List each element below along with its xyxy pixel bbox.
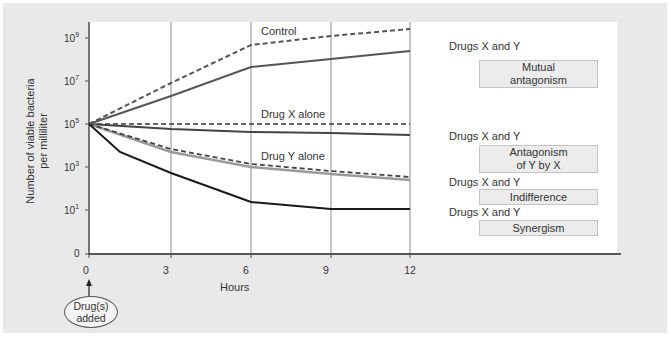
legend-title-synergism: Drugs X and Y xyxy=(449,206,520,218)
label-drug-x-alone: Drug X alone xyxy=(261,108,325,120)
series-control xyxy=(89,29,410,124)
x-tick-label: 6 xyxy=(231,264,261,276)
y-tick-label: 101 xyxy=(64,203,79,216)
x-axis-label: Hours xyxy=(220,281,249,293)
series-antagonism-y-by-x xyxy=(89,124,410,135)
x-tick-label: 3 xyxy=(151,264,181,276)
legend-label: Mutual xyxy=(480,61,597,74)
legend-label: Synergism xyxy=(480,222,597,235)
series-mutual-antagonism xyxy=(89,51,410,124)
label-control: Control xyxy=(261,25,296,37)
legend-box-mutual-antagonism: Mutual antagonism xyxy=(479,60,598,88)
legend-label: Indifference xyxy=(480,191,597,204)
legend-box-antagonism-y-by-x: Antagonism of Y by X xyxy=(479,145,598,173)
legend-label: antagonism xyxy=(480,74,597,87)
x-tick-label: 0 xyxy=(71,264,101,276)
callout-line1: Drug(s) xyxy=(65,300,117,312)
legend-box-synergism: Synergism xyxy=(479,220,598,236)
y-axis-label-line1: Number of viable bacteria xyxy=(24,46,37,236)
x-tick-label: 12 xyxy=(395,264,425,276)
y-tick-label: 103 xyxy=(64,160,79,173)
arrow-head-icon xyxy=(86,279,92,286)
legend-label: of Y by X xyxy=(480,159,597,172)
legend-title-mutual: Drugs X and Y xyxy=(449,40,520,52)
legend-label: Antagonism xyxy=(480,146,597,159)
y-tick-label: 107 xyxy=(64,74,79,87)
callout-line2: added xyxy=(65,312,117,324)
legend-title-indifference: Drugs X and Y xyxy=(449,176,520,188)
y-tick-label: 0 xyxy=(74,248,80,259)
y-axis-label: Number of viable bacteria per milliliter xyxy=(24,46,50,236)
legend-title-antagonism: Drugs X and Y xyxy=(449,130,520,142)
y-tick-label: 109 xyxy=(64,31,79,44)
legend-box-indifference: Indifference xyxy=(479,189,598,205)
y-axis-label-line2: per milliliter xyxy=(37,46,50,236)
x-tick-label: 9 xyxy=(311,264,341,276)
y-tick-label: 105 xyxy=(64,117,79,130)
label-drug-y-alone: Drug Y alone xyxy=(261,150,325,162)
drug-added-callout: Drug(s) added xyxy=(64,296,118,328)
gridlines xyxy=(171,22,410,254)
